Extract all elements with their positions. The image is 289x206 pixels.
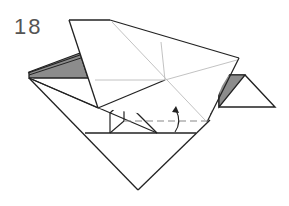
left-shaded-flap [28, 53, 88, 78]
origami-diagram [0, 0, 289, 206]
